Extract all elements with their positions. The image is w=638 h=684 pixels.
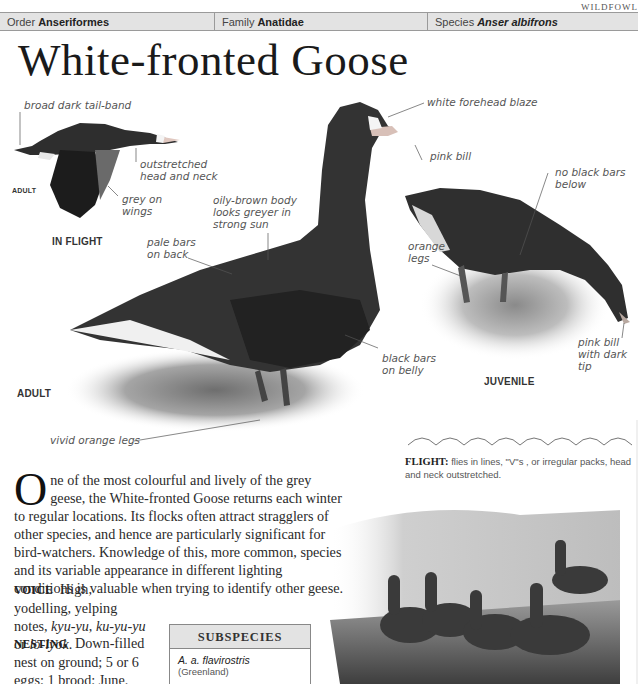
- annotation-leader-lines: [20, 103, 624, 441]
- taxonomy-family: Family Anatidae: [215, 13, 428, 30]
- species-value: Anser albifrons: [477, 16, 558, 28]
- taxonomy-bar: Order Anseriformes Family Anatidae Speci…: [0, 12, 638, 31]
- subspecies-name: A. a. flavirostris: [170, 649, 310, 666]
- description-text: ne of the most colourful and lively of t…: [14, 472, 343, 596]
- order-label: Order: [7, 16, 35, 28]
- label-no-black-bars: no black barsbelow: [555, 166, 626, 190]
- taxonomy-species: Species Anser albifrons: [428, 13, 638, 30]
- species-label: Species: [435, 16, 474, 28]
- label-pale-bars: pale barson back: [147, 236, 196, 260]
- nesting-heading: NESTING: [14, 638, 68, 650]
- drop-cap: O: [14, 473, 47, 507]
- species-description: One of the most colourful and lively of …: [14, 471, 344, 597]
- subspecies-box: SUBSPECIES A. a. flavirostris (Greenland…: [169, 624, 311, 684]
- caption-in-flight: IN FLIGHT: [52, 236, 103, 247]
- page-title: White-fronted Goose: [18, 34, 409, 86]
- flight-pattern-wave: [408, 438, 632, 445]
- caption-flight-adult: ADULT: [12, 187, 36, 194]
- subspecies-heading: SUBSPECIES: [170, 625, 310, 649]
- flight-note: FLIGHT: flies in lines, "V"s , or irregu…: [405, 455, 635, 481]
- label-body: oily-brown bodylooks greyer instrong sun: [213, 194, 297, 230]
- label-pink-bill: pink bill: [430, 150, 471, 162]
- label-black-bars-belly: black barson belly: [382, 352, 436, 376]
- label-outstretched-head: outstretchedhead and neck: [140, 158, 218, 182]
- caption-juvenile: JUVENILE: [484, 376, 535, 387]
- adult-ground: [65, 348, 365, 432]
- label-pink-bill-dark-tip: pink billwith darktip: [578, 336, 627, 372]
- order-value: Anseriformes: [38, 16, 109, 28]
- running-head: WILDFOWL: [581, 2, 638, 12]
- family-value: Anatidae: [257, 16, 303, 28]
- voice-heading: VOICE: [14, 584, 53, 596]
- taxonomy-order: Order Anseriformes: [0, 13, 215, 30]
- voice-call-1: kyu-yu: [51, 618, 89, 634]
- flock-photo: [330, 505, 638, 684]
- label-tail-band: broad dark tail-band: [24, 99, 131, 111]
- label-orange-legs: orangelegs: [408, 240, 445, 264]
- flight-note-heading: FLIGHT:: [405, 456, 449, 467]
- label-forehead-blaze: white forehead blaze: [427, 96, 538, 108]
- label-vivid-orange-legs: vivid orange legs: [50, 434, 140, 446]
- label-grey-wings: grey onwings: [122, 193, 162, 217]
- subspecies-region: (Greenland): [170, 666, 310, 677]
- adult-goose-illustration: [70, 102, 398, 406]
- nesting-section: NESTING Down-filled nest on ground; 5 or…: [14, 634, 149, 684]
- voice-call-2: ku-yu-yu: [96, 618, 146, 634]
- caption-adult: ADULT: [17, 388, 51, 399]
- family-label: Family: [222, 16, 254, 28]
